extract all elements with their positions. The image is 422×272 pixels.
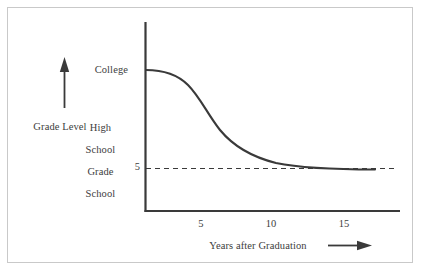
y-label-grade-school-line1: Grade <box>87 166 113 177</box>
x-axis-arrow-icon <box>328 241 372 250</box>
y-axis-title: Grade Level <box>8 121 112 132</box>
x-axis-title: Years after Graduation <box>196 240 320 251</box>
y-label-grade-school-line2: School <box>86 188 116 199</box>
y-label-grade-school: Grade School <box>62 155 128 210</box>
x-tick-label-10: 10 <box>259 218 283 229</box>
data-curve-retained-grade-level <box>146 70 375 170</box>
y-label-high-school-line2: School <box>86 144 116 155</box>
y-tick-label-5: 5 <box>126 161 140 172</box>
y-label-college: College <box>62 64 128 75</box>
x-tick-label-5: 5 <box>189 218 213 229</box>
x-tick-label-15: 15 <box>332 218 356 229</box>
figure-root: College High School Grade School 5 Grade… <box>0 0 422 272</box>
